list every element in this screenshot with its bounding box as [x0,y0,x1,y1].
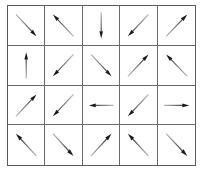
arrow-down-icon [83,6,119,45]
arrow-cell [8,6,45,46]
arrow-cell [120,46,157,86]
arrow-up-right-icon [120,46,156,85]
arrow-cell [8,86,45,126]
arrow-cell [120,125,157,165]
arrow-cell [158,86,195,126]
arrow-down-left-icon [45,46,81,85]
arrow-cell [120,86,157,126]
arrow-down-right-icon [45,125,81,165]
arrow-up-icon [8,46,44,85]
arrow-down-left-icon [45,86,81,125]
arrow-up-right-icon [158,6,195,45]
arrow-left-icon [83,86,119,125]
arrow-cell [8,46,45,86]
vector-field-grid [7,5,196,166]
arrow-up-right-icon [83,125,119,165]
arrow-right-icon [158,86,195,125]
arrow-cell [158,6,195,46]
arrow-up-left-icon [120,125,156,165]
arrow-cell [83,46,120,86]
arrow-cell [83,86,120,126]
vector-field-figure [0,0,205,173]
arrow-cell [8,125,45,165]
arrow-up-right-icon [8,86,44,125]
arrow-cell [158,46,195,86]
arrow-down-right-icon [8,6,44,45]
arrow-cell [120,6,157,46]
arrow-cell [45,86,82,126]
arrow-cell [83,6,120,46]
arrow-down-right-icon [158,125,195,165]
arrow-up-left-icon [8,125,44,165]
arrow-cell [45,125,82,165]
arrow-cell [158,125,195,165]
arrow-up-left-icon [158,46,195,85]
arrow-up-left-icon [45,6,81,45]
arrow-cell [83,125,120,165]
arrow-down-right-icon [83,46,119,85]
arrow-down-left-icon [120,6,156,45]
arrow-cell [45,46,82,86]
arrow-down-left-icon [120,86,156,125]
arrow-cell [45,6,82,46]
